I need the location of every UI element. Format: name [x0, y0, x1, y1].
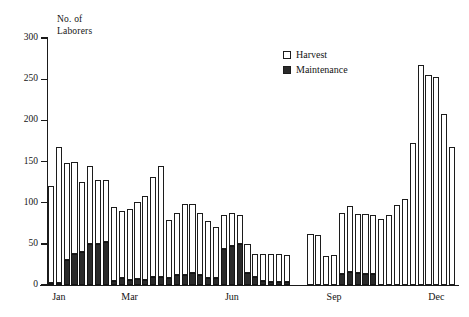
bar-segment-maintenance	[71, 254, 77, 285]
bar-segment-harvest	[331, 255, 337, 285]
bar-segment-harvest	[394, 205, 400, 285]
bar-stack	[64, 163, 70, 285]
bar-stack	[182, 204, 188, 285]
bar-stack	[111, 207, 117, 285]
y-axis-tick-label: 200	[4, 115, 38, 125]
bar-segment-harvest	[158, 166, 164, 277]
chart-container: No. of Laborers Harvest Maintenance 0501…	[0, 0, 469, 317]
bar-segment-maintenance	[355, 273, 361, 285]
bar-segment-maintenance	[127, 280, 133, 285]
bar-segment-harvest	[213, 227, 219, 278]
bar-stack	[410, 143, 416, 285]
bar-segment-harvest	[237, 215, 243, 244]
bar-stack	[378, 219, 384, 285]
x-axis-tick-label: Sep	[327, 291, 342, 303]
bar-segment-harvest	[276, 254, 282, 282]
bar-segment-harvest	[150, 177, 156, 277]
bar-stack	[433, 77, 439, 285]
bar-stack	[386, 215, 392, 285]
bar-segment-maintenance	[237, 244, 243, 285]
bar-stack	[362, 214, 368, 285]
bar-segment-harvest	[315, 235, 321, 285]
bar-segment-maintenance	[189, 273, 195, 285]
bar-segment-harvest	[362, 214, 368, 274]
bar-stack	[95, 180, 101, 285]
y-axis-title: No. of Laborers	[57, 13, 147, 37]
bar-segment-maintenance	[339, 274, 345, 285]
bar-segment-maintenance	[229, 246, 235, 285]
bar-segment-maintenance	[79, 252, 85, 285]
x-axis-line	[40, 285, 459, 286]
bar-stack	[260, 254, 266, 285]
bar-segment-maintenance	[221, 249, 227, 285]
bar-segment-harvest	[119, 211, 125, 279]
bar-segment-harvest	[268, 254, 274, 282]
bar-stack	[48, 186, 54, 285]
bar-segment-harvest	[71, 162, 77, 253]
bar-segment-harvest	[103, 180, 109, 242]
bar-segment-harvest	[87, 166, 93, 244]
bar-segment-maintenance	[276, 282, 282, 285]
y-axis-tick-label: 250	[4, 74, 38, 84]
bar-stack	[402, 199, 408, 285]
bar-stack	[339, 213, 345, 285]
bar-segment-harvest	[95, 180, 101, 243]
bar-stack	[331, 255, 337, 285]
bar-stack	[307, 234, 313, 285]
x-axis-tick-label: Mar	[121, 291, 138, 303]
bar-segment-harvest	[197, 213, 203, 276]
bar-segment-harvest	[386, 215, 392, 285]
bar-stack	[315, 235, 321, 285]
bar-segment-harvest	[355, 214, 361, 273]
bar-segment-maintenance	[174, 275, 180, 285]
bar-segment-harvest	[79, 182, 85, 252]
bar-segment-harvest	[142, 196, 148, 280]
bar-stack	[197, 213, 203, 285]
bar-stack	[79, 182, 85, 285]
bar-series-group	[47, 38, 456, 285]
bar-segment-maintenance	[284, 282, 290, 285]
bar-segment-harvest	[205, 221, 211, 279]
bar-stack	[355, 214, 361, 285]
bar-stack	[56, 147, 62, 285]
bar-stack	[127, 209, 133, 285]
bar-stack	[166, 220, 172, 285]
bar-segment-harvest	[418, 65, 424, 285]
bar-stack	[174, 213, 180, 285]
bar-segment-harvest	[174, 213, 180, 275]
bar-segment-maintenance	[134, 279, 140, 285]
bar-stack	[103, 180, 109, 285]
bar-segment-harvest	[134, 202, 140, 279]
bar-stack	[418, 65, 424, 285]
bar-stack	[268, 254, 274, 285]
bar-stack	[276, 254, 282, 285]
x-axis-tick-label: Jan	[52, 291, 65, 303]
bar-segment-maintenance	[362, 274, 368, 285]
bar-segment-maintenance	[166, 278, 172, 285]
x-axis-tick-label: Jun	[225, 291, 239, 303]
bar-segment-maintenance	[260, 281, 266, 285]
bar-stack	[150, 177, 156, 285]
bar-stack	[205, 221, 211, 285]
bar-segment-maintenance	[119, 278, 125, 285]
y-axis-ticks: 050100150200250300	[0, 0, 38, 317]
bar-stack	[425, 75, 431, 285]
bar-stack	[221, 215, 227, 285]
bar-segment-maintenance	[95, 244, 101, 285]
bar-segment-harvest	[323, 256, 329, 285]
bar-segment-maintenance	[213, 278, 219, 285]
bar-segment-harvest	[166, 220, 172, 278]
bar-segment-harvest	[425, 75, 431, 285]
bar-stack	[158, 166, 164, 285]
bar-segment-maintenance	[370, 274, 376, 285]
bar-segment-harvest	[127, 209, 133, 280]
bar-segment-harvest	[402, 199, 408, 285]
bar-segment-harvest	[449, 147, 455, 285]
y-axis-tick-label: 100	[4, 198, 38, 208]
bar-segment-maintenance	[87, 244, 93, 285]
bar-segment-harvest	[370, 215, 376, 274]
bar-segment-maintenance	[111, 281, 117, 285]
bar-segment-harvest	[252, 254, 258, 277]
bar-segment-harvest	[378, 219, 384, 285]
bar-segment-maintenance	[205, 278, 211, 285]
